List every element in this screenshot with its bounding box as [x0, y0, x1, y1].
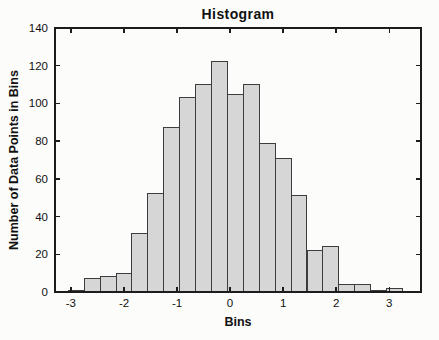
x-tick-label: -1: [172, 297, 182, 309]
y-tick-label: 140: [29, 22, 48, 34]
histogram-bar: [275, 158, 291, 292]
x-tick-label: 3: [386, 297, 392, 309]
histogram-bar: [180, 98, 196, 292]
histogram-bar: [148, 194, 164, 292]
x-tick-label: -3: [66, 297, 76, 309]
y-tick-label: 80: [35, 135, 48, 147]
histogram-bar: [339, 285, 355, 293]
y-tick-label: 100: [29, 97, 48, 109]
histogram-bar: [100, 277, 116, 292]
y-tick-label: 120: [29, 60, 48, 72]
x-axis-label: Bins: [55, 315, 421, 329]
chart-title: Histogram: [55, 6, 421, 22]
histogram-bar: [259, 143, 275, 292]
histogram-bar: [84, 279, 100, 292]
x-tick-label: 0: [227, 297, 233, 309]
histogram-bar: [212, 62, 228, 292]
y-tick-label: 60: [35, 173, 48, 185]
y-tick-label: 0: [42, 286, 48, 298]
histogram-bar: [307, 251, 323, 293]
y-axis-label: Number of Data Points in Bins: [7, 70, 21, 250]
histogram-bar: [132, 234, 148, 293]
histogram-bar: [355, 285, 371, 293]
histogram-bar: [323, 247, 339, 292]
x-tick-label: 1: [280, 297, 286, 309]
x-tick-label: 2: [333, 297, 339, 309]
histogram-bar: [227, 94, 243, 292]
histogram-bar: [243, 85, 259, 292]
histogram-figure: -3-2-10123020406080100120140 Histogram B…: [0, 0, 439, 340]
histogram-bar: [164, 128, 180, 292]
y-tick-label: 40: [35, 211, 48, 223]
histogram-bar: [291, 196, 307, 292]
y-tick-label: 20: [35, 248, 48, 260]
x-tick-label: -2: [119, 297, 129, 309]
histogram-chart: -3-2-10123020406080100120140: [0, 0, 439, 340]
histogram-bar: [196, 85, 212, 292]
